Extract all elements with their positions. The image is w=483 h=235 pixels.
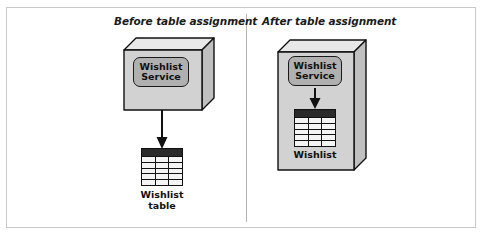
table-cell bbox=[309, 135, 323, 140]
table-cell bbox=[156, 163, 170, 168]
table-cell bbox=[169, 169, 182, 174]
table-cell bbox=[322, 141, 335, 146]
figure-container: Before table assignment Wishlist Service bbox=[0, 0, 483, 235]
figure-frame bbox=[6, 7, 476, 228]
table-cell bbox=[169, 163, 182, 168]
service-label-line2: Service bbox=[141, 72, 181, 82]
table-cell bbox=[295, 118, 309, 123]
service-label-line2: Service bbox=[295, 71, 335, 81]
table-body bbox=[142, 157, 182, 185]
table-cell bbox=[322, 118, 335, 123]
table-cell bbox=[156, 169, 170, 174]
table-cell bbox=[142, 157, 156, 162]
table-cell bbox=[156, 180, 170, 185]
table-cell bbox=[142, 169, 156, 174]
table-cell bbox=[295, 130, 309, 135]
panel-title-before: Before table assignment bbox=[114, 15, 257, 27]
panel-title-after: After table assignment bbox=[262, 15, 396, 27]
table-header-row bbox=[142, 149, 182, 157]
table-cell bbox=[169, 157, 182, 162]
service-node-before: Wishlist Service bbox=[133, 57, 189, 87]
service-node-after: Wishlist Service bbox=[288, 56, 342, 86]
table-cell bbox=[309, 130, 323, 135]
arrow-service-to-table-after bbox=[307, 88, 323, 110]
table-cell bbox=[322, 135, 335, 140]
table-row bbox=[142, 180, 182, 185]
table-cell bbox=[156, 174, 170, 179]
table-cell bbox=[295, 124, 309, 129]
table-cell bbox=[309, 141, 323, 146]
panel-divider bbox=[246, 14, 247, 222]
table-cell bbox=[322, 130, 335, 135]
table-row bbox=[295, 141, 335, 146]
table-caption-before: Wishlist table bbox=[132, 190, 192, 211]
table-cell bbox=[156, 157, 170, 162]
table-cell bbox=[142, 163, 156, 168]
table-caption-line2: table bbox=[132, 201, 192, 212]
table-cell bbox=[295, 141, 309, 146]
table-cell bbox=[142, 174, 156, 179]
table-cell bbox=[309, 118, 323, 123]
table-cell bbox=[169, 180, 182, 185]
table-glyph-before bbox=[141, 148, 183, 186]
table-glyph-after bbox=[294, 109, 336, 147]
table-cell bbox=[169, 174, 182, 179]
arrow-service-to-table-before bbox=[154, 110, 170, 150]
table-cell bbox=[322, 124, 335, 129]
table-cell bbox=[309, 124, 323, 129]
table-cell bbox=[295, 135, 309, 140]
table-body bbox=[295, 118, 335, 146]
table-header-row bbox=[295, 110, 335, 118]
table-caption-line1: Wishlist bbox=[285, 150, 345, 161]
table-caption-after: Wishlist bbox=[285, 150, 345, 161]
table-cell bbox=[142, 180, 156, 185]
